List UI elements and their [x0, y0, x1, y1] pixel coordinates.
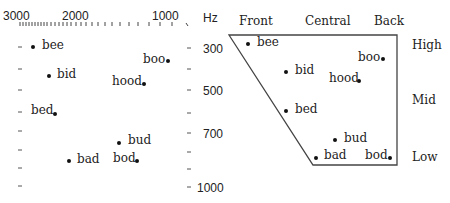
point-marker-bee — [31, 45, 35, 49]
point-marker-bid — [47, 74, 51, 78]
row-label-mid: Mid — [412, 93, 436, 107]
row-label-high: High — [412, 38, 442, 52]
point-label-boo: boo — [143, 52, 165, 66]
vowel-label-bed: bed — [295, 102, 317, 116]
vowel-label-bod: bod — [365, 148, 388, 162]
y-tick-label-1000: 1000 — [197, 181, 224, 195]
column-label-front: Front — [239, 14, 273, 28]
vowel-label-bad: bad — [324, 148, 347, 162]
point-label-bud: bud — [128, 133, 151, 147]
point-marker-bud — [117, 141, 121, 145]
y-tick-label-700: 700 — [203, 127, 223, 141]
point-label-bed: bed — [31, 103, 53, 117]
point-marker-bed — [53, 112, 57, 116]
vowel-marker-bud — [333, 138, 337, 142]
vowel-marker-bod — [388, 156, 392, 160]
vowel-label-hood: hood — [329, 71, 359, 85]
point-label-bad: bad — [77, 152, 100, 166]
y-tick-label-300: 300 — [203, 42, 223, 56]
axis-ticks — [0, 0, 450, 203]
point-label-hood: hood — [112, 74, 142, 88]
row-label-low: Low — [412, 150, 437, 164]
vowel-label-bee: bee — [257, 35, 279, 49]
vowel-marker-bee — [246, 42, 250, 46]
column-label-back: Back — [374, 14, 404, 28]
point-marker-bad — [67, 159, 71, 163]
vowel-marker-bid — [284, 70, 288, 74]
point-label-bod: bod — [113, 151, 136, 165]
point-label-bid: bid — [57, 67, 76, 81]
y-tick-label-500: 500 — [203, 84, 223, 98]
vowel-label-bid: bid — [295, 63, 314, 77]
column-label-central: Central — [305, 14, 351, 28]
vowel-marker-bad — [314, 156, 318, 160]
point-marker-boo — [166, 59, 170, 63]
point-label-bee: bee — [42, 38, 64, 52]
vowel-label-bud: bud — [344, 131, 367, 145]
vowel-marker-boo — [381, 57, 385, 61]
vowel-label-boo: boo — [358, 50, 380, 64]
vowel-marker-bed — [284, 109, 288, 113]
vowel-diagram-figure: 3000 2000 1000 Hz — [0, 0, 450, 203]
point-marker-hood — [142, 82, 146, 86]
